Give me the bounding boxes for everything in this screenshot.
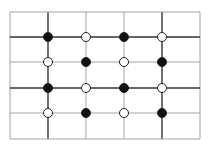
open-dot: [44, 58, 53, 67]
open-dot: [82, 33, 91, 42]
filled-dot: [44, 33, 53, 42]
open-dot: [120, 58, 129, 67]
filled-dot: [120, 33, 129, 42]
filled-dot: [120, 84, 129, 93]
open-dot: [158, 84, 167, 93]
grid-lines: [10, 12, 200, 139]
filled-dot: [82, 58, 91, 67]
open-dot: [158, 33, 167, 42]
grid-dots: [44, 33, 167, 118]
grid-dot-diagram: [0, 0, 211, 147]
filled-dot: [158, 58, 167, 67]
filled-dot: [82, 109, 91, 118]
filled-dot: [158, 109, 167, 118]
open-dot: [82, 84, 91, 93]
open-dot: [44, 109, 53, 118]
filled-dot: [44, 84, 53, 93]
open-dot: [120, 109, 129, 118]
